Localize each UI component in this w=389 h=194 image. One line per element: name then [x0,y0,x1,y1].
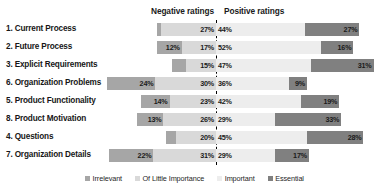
segment-value-label: 27% [200,25,214,34]
bar-segment: 31% [153,149,216,162]
segment-value-label: 16% [338,43,352,52]
bar-segment: 29% [216,113,275,126]
legend-swatch-icon [217,176,222,181]
segment-value-label: 13% [148,115,162,124]
segment-value-label: 22% [138,151,152,160]
segment-value-label: 30% [200,79,214,88]
legend-item[interactable]: Essential [268,174,304,183]
bar-segment: 7% [172,59,186,72]
segment-value-label: 44% [218,25,232,34]
legend-swatch-icon [135,176,140,181]
segment-value-label: 20% [200,133,214,142]
likert-bar-chart: Negative ratings Positive ratings 1. Cur… [0,0,389,194]
legend-item[interactable]: Important [217,174,254,183]
bar-segment: 26% [163,113,216,126]
segment-value-label: 29% [218,151,232,160]
stacked-bar: 20%5%45%28% [0,131,389,144]
chart-header: Negative ratings Positive ratings [0,6,389,20]
bar-segment: 17% [182,41,216,54]
legend-item[interactable]: Of Little Importance [135,174,204,183]
bar-segment: 23% [170,95,216,108]
stacked-bar: 26%13%29%33% [0,113,389,126]
bar-segment: 15% [186,59,216,72]
stacked-bar: 31%22%29%17% [0,149,389,162]
stacked-bar: 30%24%36%9% [0,77,389,90]
segment-value-label: 27% [344,25,358,34]
legend-swatch-icon [268,176,273,181]
stacked-bar: 23%14%42%19% [0,95,389,108]
bar-segment: 20% [176,131,216,144]
bar-segment: 12% [157,41,181,54]
stacked-bar: 15%7%47%31% [0,59,389,72]
bar-segment: 27% [161,23,216,36]
bar-segment: 19% [301,95,339,108]
negative-ratings-header: Negative ratings [151,6,217,16]
segment-value-label: 36% [218,79,232,88]
positive-ratings-header: Positive ratings [224,6,284,16]
stacked-bar: 17%12%52%16% [0,41,389,54]
segment-value-label: 26% [200,115,214,124]
chart-row: 2. Future Process17%12%52%16% [0,39,389,57]
segment-value-label: 31% [358,61,372,70]
chart-row: 1. Current Process27%2%44%27% [0,21,389,39]
bar-segment: 36% [216,77,289,90]
bar-segment: 16% [321,41,353,54]
segment-value-label: 19% [323,97,337,106]
bar-segment: 31% [311,59,374,72]
bar-segment: 42% [216,95,301,108]
bar-segment: 44% [216,23,305,36]
bar-segment: 30% [155,77,216,90]
bar-segment: 24% [107,77,155,90]
segment-value-label: 14% [154,97,168,106]
bar-segment: 17% [275,149,309,162]
bar-segment: 22% [109,149,153,162]
bar-segment: 33% [275,113,342,126]
segment-value-label: 45% [218,133,232,142]
chart-row: 4. Questions20%5%45%28% [0,129,389,147]
chart-row: 8. Product Motivation26%13%29%33% [0,111,389,129]
legend-label: Essential [275,174,304,183]
chart-row: 5. Product Functionality23%14%42%19% [0,93,389,111]
chart-legend: IrrelevantOf Little ImportanceImportantE… [0,170,389,186]
segment-value-label: 33% [325,115,339,124]
stacked-bar: 27%2%44%27% [0,23,389,36]
plot-area: 1. Current Process27%2%44%27%2. Future P… [0,20,389,165]
legend-label: Irrelevant [93,174,122,183]
segment-value-label: 15% [200,61,214,70]
bar-segment: 29% [216,149,275,162]
bar-segment: 27% [305,23,360,36]
bar-segment: 28% [307,131,364,144]
segment-value-label: 23% [200,97,214,106]
segment-value-label: 24% [140,79,154,88]
segment-value-label: 52% [218,43,232,52]
segment-value-label: 29% [218,115,232,124]
segment-value-label: 9% [295,79,305,88]
bar-segment: 14% [141,95,169,108]
legend-label: Of Little Importance [143,174,205,183]
bar-segment: 45% [216,131,307,144]
segment-value-label: 12% [166,43,180,52]
bar-segment: 52% [216,41,321,54]
segment-value-label: 28% [348,133,362,142]
segment-value-label: 42% [218,97,232,106]
bar-segment: 47% [216,59,311,72]
segment-value-label: 17% [293,151,307,160]
bar-segment: 2% [157,23,161,36]
chart-row: 3. Explicit Requirements15%7%47%31% [0,57,389,75]
segment-value-label: 17% [200,43,214,52]
legend-label: Important [225,174,255,183]
bar-segment: 9% [289,77,307,90]
segment-value-label: 47% [218,61,232,70]
chart-row: 6. Organization Problems30%24%36%9% [0,75,389,93]
segment-value-label: 31% [200,151,214,160]
legend-item[interactable]: Irrelevant [85,174,122,183]
bar-segment: 5% [166,131,176,144]
bar-segment: 13% [137,113,163,126]
chart-row: 7. Organization Details31%22%29%17% [0,147,389,165]
legend-swatch-icon [85,176,90,181]
